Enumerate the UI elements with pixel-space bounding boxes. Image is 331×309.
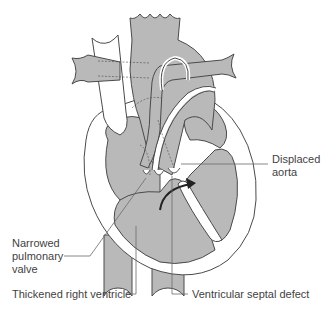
label-displaced-aorta-line1: Displaced xyxy=(272,153,320,166)
label-vsd-text: Ventricular septal defect xyxy=(192,288,309,301)
label-displaced-aorta-line2: aorta xyxy=(272,166,320,179)
label-narrowed-line2: pulmonary xyxy=(12,250,63,263)
label-ventricular-septal-defect: Ventricular septal defect xyxy=(192,288,309,301)
label-thickened-right-ventricle: Thickened right ventricle xyxy=(12,288,131,301)
label-displaced-aorta: Displaced aorta xyxy=(272,153,320,179)
label-thickened-text: Thickened right ventricle xyxy=(12,288,131,301)
label-narrowed-line3: valve xyxy=(12,263,63,276)
label-narrowed-line1: Narrowed xyxy=(12,237,63,250)
label-narrowed-pulmonary-valve: Narrowed pulmonary valve xyxy=(12,237,63,276)
